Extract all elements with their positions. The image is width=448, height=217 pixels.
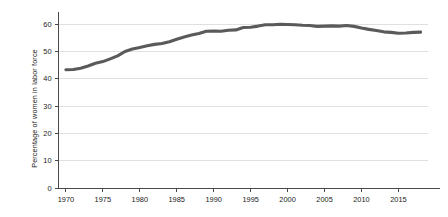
x-tick-label: 2015 bbox=[390, 195, 406, 204]
y-tick-label: 30 bbox=[43, 102, 51, 111]
x-tick-label: 2000 bbox=[279, 195, 295, 204]
line-chart: Percentage of women in labor force 01020… bbox=[0, 0, 448, 217]
x-tick-label: 1975 bbox=[95, 195, 111, 204]
gridlines bbox=[59, 24, 429, 188]
x-tick-label: 1985 bbox=[169, 195, 185, 204]
y-tick-label: 40 bbox=[43, 74, 51, 83]
y-tick-label: 0 bbox=[47, 184, 51, 193]
x-tick-label: 2005 bbox=[316, 195, 332, 204]
data-series-line bbox=[66, 24, 421, 70]
x-tick-label: 1980 bbox=[132, 195, 148, 204]
x-tick-label: 1970 bbox=[58, 195, 74, 204]
x-tick-label: 1995 bbox=[242, 195, 258, 204]
y-axis-ticks: 0102030405060 bbox=[43, 20, 58, 193]
x-tick-label: 1990 bbox=[205, 195, 221, 204]
y-tick-label: 20 bbox=[43, 129, 51, 138]
x-axis-ticks: 1970197519801985199019952000200520102015 bbox=[58, 188, 407, 204]
y-tick-label: 10 bbox=[43, 156, 51, 165]
chart-canvas: 0102030405060 19701975198019851990199520… bbox=[0, 0, 448, 217]
x-tick-label: 2010 bbox=[353, 195, 369, 204]
y-tick-label: 50 bbox=[43, 47, 51, 56]
y-tick-label: 60 bbox=[43, 20, 51, 29]
